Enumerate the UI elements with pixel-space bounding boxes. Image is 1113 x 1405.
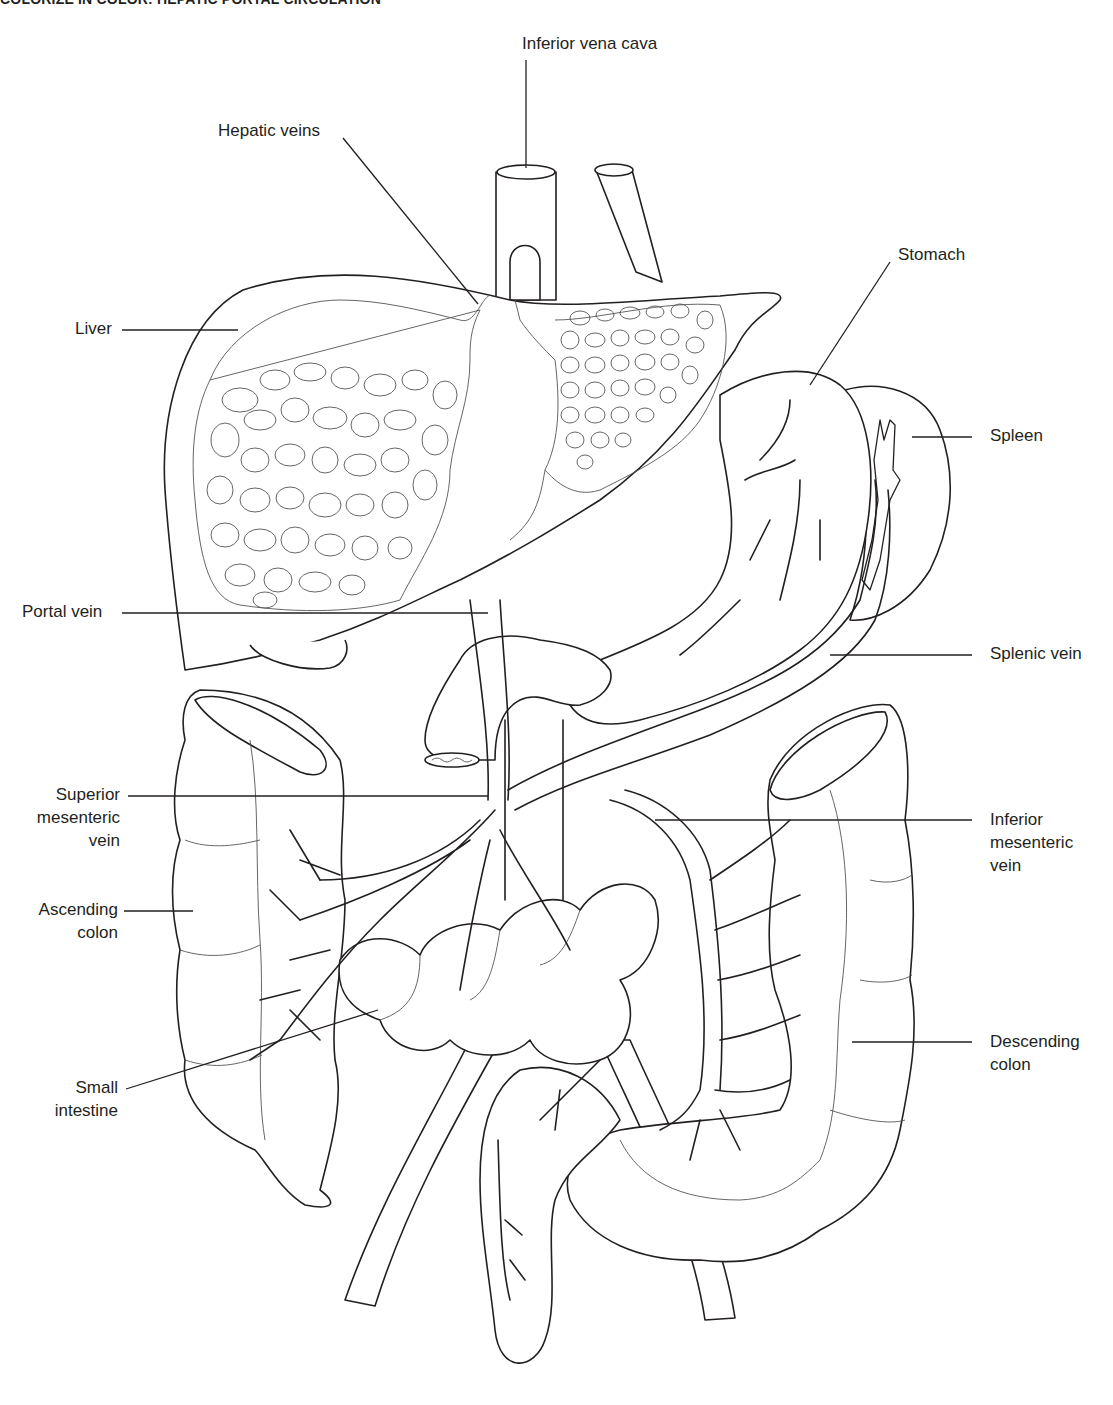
- label-ascending-colon-line1: Ascending: [12, 898, 118, 921]
- label-stomach: Stomach: [898, 243, 965, 266]
- label-small-intestine-line1: Small: [12, 1076, 118, 1099]
- ascending-colon-drawing: [173, 690, 346, 1207]
- label-descending-colon-line1: Descending: [990, 1030, 1080, 1053]
- label-inferior-mesenteric-vein-line3: vein: [990, 854, 1073, 877]
- label-inferior-mesenteric-vein: Inferior mesenteric vein: [990, 808, 1073, 877]
- label-inferior-vena-cava: Inferior vena cava: [522, 32, 657, 55]
- liver-drawing: [164, 275, 780, 670]
- label-small-intestine: Small intestine: [12, 1076, 118, 1122]
- label-ascending-colon: Ascending colon: [12, 898, 118, 944]
- label-spleen: Spleen: [990, 424, 1043, 447]
- label-superior-mesenteric-vein: Superior mesenteric vein: [16, 783, 120, 852]
- label-inferior-mesenteric-vein-line1: Inferior: [990, 808, 1073, 831]
- label-descending-colon: Descending colon: [990, 1030, 1080, 1076]
- label-superior-mesenteric-vein-line3: vein: [16, 829, 120, 852]
- gallbladder-drawing: [250, 640, 347, 669]
- label-small-intestine-line2: intestine: [12, 1099, 118, 1122]
- label-superior-mesenteric-vein-line1: Superior: [16, 783, 120, 806]
- label-inferior-mesenteric-vein-line2: mesenteric: [990, 831, 1073, 854]
- label-portal-vein: Portal vein: [22, 600, 102, 623]
- hepatic-portal-diagram: [0, 0, 1113, 1405]
- small-intestine-drawing: [339, 884, 658, 1064]
- aorta-drawing: [595, 164, 662, 282]
- label-splenic-vein: Splenic vein: [990, 642, 1082, 665]
- label-descending-colon-line2: colon: [990, 1053, 1080, 1076]
- label-hepatic-veins: Hepatic veins: [218, 119, 320, 142]
- label-ascending-colon-line2: colon: [12, 921, 118, 944]
- pancreas-drawing: [425, 636, 611, 767]
- label-superior-mesenteric-vein-line2: mesenteric: [16, 806, 120, 829]
- label-liver: Liver: [75, 317, 112, 340]
